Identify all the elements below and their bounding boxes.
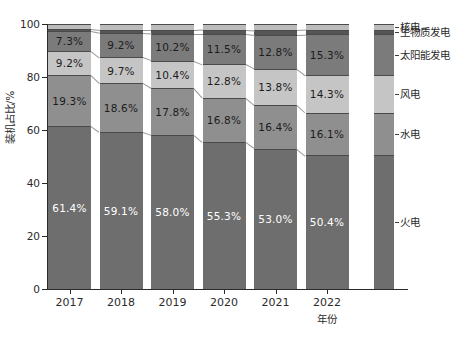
- segment-connector-line: [90, 75, 99, 84]
- bar-segment-火电[interactable]: 59.1%: [100, 132, 143, 289]
- bar-segment-生物质发电[interactable]: [254, 30, 297, 35]
- bar-segment-太阳能发电[interactable]: 10.2%: [151, 34, 194, 61]
- segment-connector-line: [297, 34, 306, 35]
- bar-segment-风电[interactable]: 13.8%: [254, 69, 297, 106]
- segment-value-label: 9.2%: [107, 40, 134, 51]
- bar-segment-水电[interactable]: 16.4%: [254, 105, 297, 148]
- bar-segment-火电[interactable]: 55.3%: [203, 142, 246, 289]
- segment-connector-line: [91, 31, 100, 34]
- segment-value-label: 58.0%: [155, 207, 189, 218]
- legend-label-核电[interactable]: 核电: [400, 22, 420, 33]
- segment-value-label: 19.3%: [52, 96, 86, 107]
- legend-label-风电[interactable]: 风电: [400, 89, 420, 100]
- legend-tick-mark: [395, 32, 399, 33]
- segment-connector-line: [296, 69, 305, 76]
- bar-segment-风电[interactable]: 12.8%: [203, 64, 246, 98]
- bar-segment-风电[interactable]: 9.7%: [100, 57, 143, 83]
- chart-figure: 装机占比/% 020406080100 61.4%19.3%9.2%7.3%59…: [0, 0, 459, 340]
- bar-segment-生物质发电[interactable]: [203, 30, 246, 34]
- segment-value-label: 9.7%: [107, 66, 134, 77]
- bar-segment-核电[interactable]: [48, 24, 91, 29]
- segment-connector-line: [143, 30, 152, 31]
- bar-segment-核电[interactable]: [100, 24, 143, 30]
- bar-segment-核电[interactable]: [254, 24, 297, 30]
- y-tick-mark: [42, 24, 47, 25]
- legend-label-水电[interactable]: 水电: [400, 129, 420, 140]
- bar-segment-生物质发电[interactable]: [151, 30, 194, 33]
- bar-segment-水电[interactable]: 16.1%: [306, 113, 349, 156]
- x-tick-mark: [327, 290, 328, 294]
- legend-swatch-核电: [374, 24, 394, 30]
- bar-segment-风电[interactable]: 14.3%: [306, 75, 349, 113]
- bar-segment-太阳能发电[interactable]: 9.2%: [100, 33, 143, 57]
- bar-segment-水电[interactable]: 19.3%: [48, 75, 91, 126]
- segment-connector-line: [245, 64, 254, 69]
- y-tick-label: 100: [8, 19, 40, 30]
- legend-tick-mark: [395, 94, 399, 95]
- bar-segment-核电[interactable]: [151, 24, 194, 30]
- segment-connector-line: [245, 34, 254, 36]
- segment-value-label: 50.4%: [310, 217, 344, 228]
- segment-connector-line: [245, 98, 254, 106]
- segment-connector-line: [297, 30, 306, 32]
- bar-segment-火电[interactable]: 53.0%: [254, 149, 297, 289]
- segment-connector-line: [194, 61, 203, 65]
- segment-connector-line: [142, 132, 151, 136]
- y-tick-mark: [42, 236, 47, 237]
- bar-segment-太阳能发电[interactable]: 12.8%: [254, 35, 297, 69]
- bar-segment-火电[interactable]: 50.4%: [306, 155, 349, 289]
- bar-2021[interactable]: 53.0%16.4%13.8%12.8%: [254, 24, 297, 289]
- y-tick-label: 0: [8, 284, 40, 295]
- legend-tick-mark: [395, 222, 399, 223]
- bar-segment-火电[interactable]: 61.4%: [48, 126, 91, 289]
- bar-segment-太阳能发电[interactable]: 15.3%: [306, 34, 349, 75]
- segment-value-label: 11.5%: [207, 44, 241, 55]
- bar-2018[interactable]: 59.1%18.6%9.7%9.2%: [100, 24, 143, 289]
- segment-value-label: 18.6%: [104, 103, 138, 114]
- legend-swatch-生物质发电: [374, 30, 394, 35]
- bar-segment-火电[interactable]: 58.0%: [151, 135, 194, 289]
- bar-segment-风电[interactable]: 10.4%: [151, 61, 194, 89]
- bar-2019[interactable]: 58.0%17.8%10.4%10.2%: [151, 24, 194, 289]
- bar-segment-核电[interactable]: [306, 24, 349, 30]
- legend-tick-mark: [395, 55, 399, 56]
- segment-value-label: 15.3%: [310, 50, 344, 61]
- x-tick-mark: [173, 290, 174, 294]
- legend-label-火电[interactable]: 火电: [400, 217, 420, 228]
- y-tick-label: 20: [8, 231, 40, 242]
- bar-segment-水电[interactable]: 16.8%: [203, 98, 246, 143]
- segment-value-label: 16.4%: [258, 122, 292, 133]
- y-tick-label: 80: [8, 72, 40, 83]
- bar-segment-风电[interactable]: 9.2%: [48, 51, 91, 75]
- bar-segment-生物质发电[interactable]: [48, 29, 91, 31]
- segment-connector-line: [245, 30, 254, 32]
- bar-segment-水电[interactable]: 18.6%: [100, 83, 143, 132]
- bar-2022[interactable]: 50.4%16.1%14.3%15.3%: [306, 24, 349, 289]
- legend-label-太阳能发电[interactable]: 太阳能发电: [400, 50, 450, 61]
- bar-2020[interactable]: 55.3%16.8%12.8%11.5%: [203, 24, 246, 289]
- segment-connector-line: [245, 142, 254, 149]
- y-tick-mark: [42, 130, 47, 131]
- bar-segment-生物质发电[interactable]: [100, 30, 143, 33]
- segment-connector-line: [90, 126, 99, 133]
- segment-value-label: 17.8%: [155, 107, 189, 118]
- legend-swatch-火电: [374, 155, 394, 289]
- bar-segment-生物质发电[interactable]: [306, 30, 349, 35]
- segment-connector-line: [142, 33, 151, 35]
- bar-2017[interactable]: 61.4%19.3%9.2%7.3%: [48, 24, 91, 289]
- segment-value-label: 53.0%: [258, 214, 292, 225]
- segment-value-label: 13.8%: [258, 82, 292, 93]
- segment-value-label: 14.3%: [310, 89, 344, 100]
- segment-connector-line: [194, 34, 203, 35]
- bar-segment-水电[interactable]: 17.8%: [151, 88, 194, 135]
- y-tick-mark: [42, 183, 47, 184]
- segment-connector-line: [296, 149, 305, 157]
- segment-connector-line: [193, 135, 202, 143]
- segment-value-label: 61.4%: [52, 203, 86, 214]
- segment-connector-line: [142, 83, 151, 89]
- segment-value-label: 12.8%: [207, 76, 241, 87]
- bar-segment-核电[interactable]: [203, 24, 246, 30]
- segment-value-label: 59.1%: [104, 206, 138, 217]
- bar-segment-太阳能发电[interactable]: 7.3%: [48, 31, 91, 50]
- bar-segment-太阳能发电[interactable]: 11.5%: [203, 34, 246, 64]
